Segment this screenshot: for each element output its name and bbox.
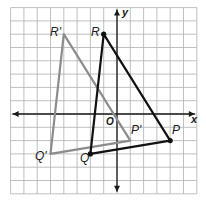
vertex-label-q: Q (80, 152, 89, 164)
coordinate-grid-figure: y x O R Q P R' Q' P' (0, 0, 206, 202)
origin-label: O (106, 116, 114, 128)
y-axis-label: y (122, 6, 128, 18)
vertex-label-r-prime: R' (50, 26, 61, 38)
vertex-label-p-prime: P' (131, 124, 141, 136)
y-axis-down-arrow-icon (114, 186, 120, 192)
x-axis-label: x (191, 113, 197, 125)
vertex-label-q-prime: Q' (35, 150, 47, 162)
coordinate-plane (0, 0, 206, 202)
y-axis-up-arrow-icon (114, 10, 120, 16)
x-axis-left-arrow-icon (13, 111, 19, 117)
vertex-label-r: R (91, 26, 100, 38)
vertex-point (168, 138, 173, 143)
vertex-point (101, 32, 106, 37)
vertex-label-p: P (172, 124, 180, 136)
